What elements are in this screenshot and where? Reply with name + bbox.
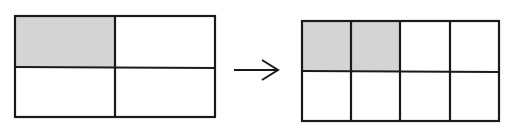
right-grid-cell-shaded-1 <box>302 21 351 71</box>
right-arrow-icon <box>234 60 278 80</box>
left-grid-cell-shaded <box>15 16 115 67</box>
left-grid-horizontal-divider <box>15 67 215 68</box>
fraction-diagram <box>0 0 505 134</box>
right-grid-cell-shaded-2 <box>351 21 400 71</box>
left-grid <box>15 16 215 117</box>
right-grid-horizontal-divider <box>302 71 499 72</box>
right-grid <box>302 21 499 121</box>
